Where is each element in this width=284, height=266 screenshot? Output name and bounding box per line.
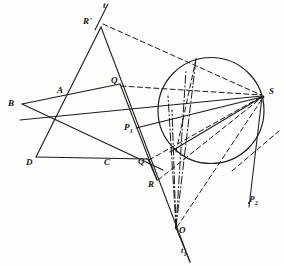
label-t1: t1 [181,247,187,257]
label-p1: P1 [124,123,133,134]
diagram-canvas [0,0,284,266]
label-b: B [8,99,14,108]
line-d-a-rprime [36,27,101,157]
label-t: t [103,1,106,10]
label-s: S [269,87,274,96]
line-left-to-s [20,96,262,120]
line-d-qprime [36,157,148,159]
label-p2-subscript: 2 [255,199,258,206]
label-t1-subscript: 1 [183,250,186,257]
label-p2: P2 [249,195,258,206]
dash-qprime-s [149,97,261,160]
label-c: C [104,158,110,167]
conic-circle [158,58,264,164]
dashdot-o-centre [176,70,186,227]
label-o: O [179,226,186,235]
geometry-figure: t R' A B Q D C Q' R P1 P2 S O t1 [0,0,284,266]
point-marker-o [175,227,177,229]
solid-line-group [22,4,262,262]
label-p1-subscript: 1 [130,127,133,134]
label-r-prime: R' [83,17,92,26]
line-t [95,4,108,30]
label-q-prime: Q' [138,157,147,166]
point-marker-s [262,96,265,99]
label-a: A [57,86,63,95]
dash-rprime-s [103,24,261,95]
extra-construction-group [20,96,262,262]
label-r: R [148,180,154,189]
label-q: Q [111,76,118,85]
label-d: D [26,158,33,167]
